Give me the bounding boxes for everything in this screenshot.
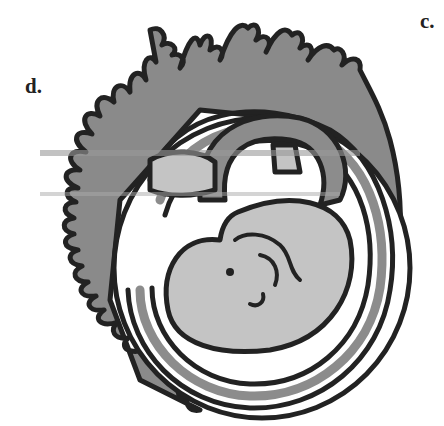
embryo-diagram-graphic [0,0,444,426]
diagram: d. c. [0,0,444,426]
eye [226,268,234,276]
label-c: c. [420,11,435,32]
connecting-tab [273,145,300,172]
yolk-sac [150,152,215,195]
label-d: d. [25,76,42,97]
